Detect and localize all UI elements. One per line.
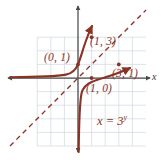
equation-label: x = 3y — [97, 113, 127, 129]
point-label-1-0: (1, 0) — [86, 83, 112, 95]
graph-canvas — [0, 0, 162, 162]
point-0-1 — [76, 63, 80, 67]
point-label-1-3: (1, 3) — [90, 36, 116, 48]
point-3-1 — [117, 63, 121, 67]
point-label-3-1: (3, 1) — [112, 68, 138, 80]
logarithmic-curve — [79, 68, 130, 152]
x-axis-label: x — [152, 71, 156, 82]
point-label-0-1: (0, 1) — [44, 52, 70, 64]
point-1-0 — [90, 76, 94, 80]
equation-exponent: y — [123, 113, 127, 122]
graph-figure: (0, 1) (1, 3) (1, 0) (3, 1) x = 3y x — [0, 0, 162, 162]
equation-base: x = 3 — [97, 114, 123, 128]
